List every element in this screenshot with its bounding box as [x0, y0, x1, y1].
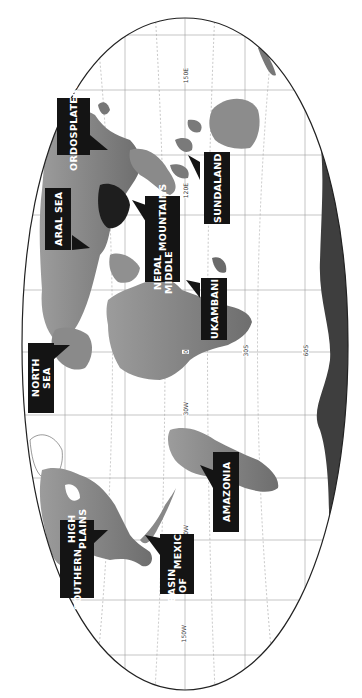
callout-basin-of-mexico: BASIN OF MEXICO — [160, 534, 194, 594]
callout-nepal-middle-mountains: NEPAL MIDDLE MOUNTAINS — [145, 196, 180, 282]
callout-amazonia-line1: AMAZONIA — [221, 462, 232, 522]
landmass-japan — [98, 102, 110, 114]
callout-basin-of-mexico-line1: BASIN OF — [166, 569, 188, 603]
grid-label-0: 0 — [182, 350, 189, 354]
landmass-antarctica — [317, 20, 352, 690]
callout-ordos-plateau-line1: ORDOS — [68, 131, 79, 171]
callout-ordos-plateau-line2: PLATEAU — [68, 82, 79, 131]
callout-southern-high-plains: SOUTHERN HIGH PLAINS — [60, 520, 94, 598]
callout-amazonia: AMAZONIA — [213, 452, 239, 532]
callout-aral-sea: ARAL SEA — [45, 188, 71, 250]
callout-sundaland-line1: SUNDALAND — [212, 153, 223, 223]
grid-label-30w: 30W — [182, 402, 189, 416]
callout-aral-sea-line1: ARAL SEA — [53, 192, 64, 246]
callout-ukambani: UKAMBANI — [201, 278, 227, 340]
callout-nepal-middle-mountains-line2: MOUNTAINS — [157, 184, 168, 251]
callout-ordos-plateau: ORDOS PLATEAU — [57, 98, 90, 155]
grid-label-60s: 60S — [302, 345, 309, 356]
callout-ukambani-line1: UKAMBANI — [209, 279, 220, 339]
callout-north-sea-line1: NORTH SEA — [30, 346, 52, 410]
grid-label-30s: 30S — [242, 345, 249, 356]
grid-label-150w: 150W — [180, 625, 187, 642]
callout-sundaland: SUNDALAND — [204, 152, 230, 224]
landmass-madagascar — [212, 257, 226, 273]
landmass-africa — [107, 278, 253, 380]
callout-nepal-middle-mountains-line1: NEPAL MIDDLE — [152, 251, 174, 294]
landmass-australia — [209, 99, 259, 149]
grid-label-150e: 150E — [182, 68, 189, 83]
landmass-north-america — [40, 468, 152, 566]
callout-north-sea: NORTH SEA — [28, 343, 54, 413]
landmass-arabia — [109, 253, 140, 282]
callout-basin-of-mexico-line2: MEXICO — [172, 525, 183, 569]
grid-label-120e: 120E — [182, 183, 189, 198]
callout-southern-high-plains-line2: HIGH PLAINS — [66, 508, 88, 549]
callout-southern-high-plains-line1: SOUTHERN — [72, 549, 83, 610]
